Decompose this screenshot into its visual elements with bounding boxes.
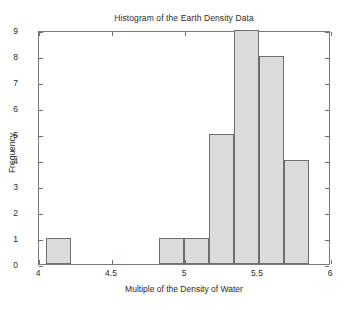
y-axis-tick	[325, 110, 329, 111]
x-tick-label: 4	[23, 268, 53, 278]
y-tick-label: 1	[0, 234, 18, 244]
histogram-bar	[184, 238, 209, 264]
x-axis-tick	[331, 260, 332, 264]
y-axis-tick	[39, 110, 43, 111]
y-axis-tick	[39, 214, 43, 215]
histogram-bar	[209, 134, 234, 264]
y-tick-label: 2	[0, 208, 18, 218]
histogram-bar	[259, 56, 284, 264]
y-axis-tick	[325, 58, 329, 59]
y-axis-tick	[325, 136, 329, 137]
y-axis-title: Frequency	[7, 103, 17, 203]
y-axis-tick	[39, 162, 43, 163]
plot-area	[38, 31, 330, 265]
y-tick-label: 8	[0, 52, 18, 62]
x-axis-tick	[185, 260, 186, 264]
x-axis-tick	[39, 260, 40, 264]
y-axis-tick	[325, 240, 329, 241]
y-axis-tick	[325, 84, 329, 85]
chart-title: Histogram of the Earth Density Data	[38, 13, 330, 23]
histogram-bar	[234, 30, 259, 264]
x-axis-tick	[112, 32, 113, 36]
x-tick-label: 6	[315, 268, 345, 278]
x-axis-tick	[185, 32, 186, 36]
x-axis-title: Multiple of the Density of Water	[38, 284, 330, 294]
x-tick-label: 4.5	[96, 268, 126, 278]
y-axis-tick	[39, 58, 43, 59]
y-tick-label: 0	[0, 260, 18, 270]
histogram-bar	[159, 238, 184, 264]
histogram-bar	[284, 160, 309, 264]
y-tick-label: 7	[0, 78, 18, 88]
y-axis-tick	[39, 266, 43, 267]
y-axis-tick	[325, 266, 329, 267]
histogram-figure: Histogram of the Earth Density Data 0123…	[0, 0, 350, 310]
y-axis-tick	[39, 240, 43, 241]
x-axis-tick	[39, 32, 40, 36]
histogram-bar	[46, 238, 71, 264]
bars-layer	[39, 32, 329, 264]
y-axis-tick	[39, 188, 43, 189]
y-axis-tick	[325, 32, 329, 33]
y-axis-tick	[325, 214, 329, 215]
y-axis-tick	[325, 162, 329, 163]
x-axis-tick	[258, 32, 259, 36]
x-tick-label: 5	[169, 268, 199, 278]
y-axis-tick	[325, 188, 329, 189]
y-tick-label: 9	[0, 26, 18, 36]
x-tick-label: 5.5	[242, 268, 272, 278]
x-axis-tick	[258, 260, 259, 264]
x-axis-tick	[331, 32, 332, 36]
y-axis-tick	[39, 136, 43, 137]
x-axis-tick	[112, 260, 113, 264]
y-axis-tick	[39, 84, 43, 85]
